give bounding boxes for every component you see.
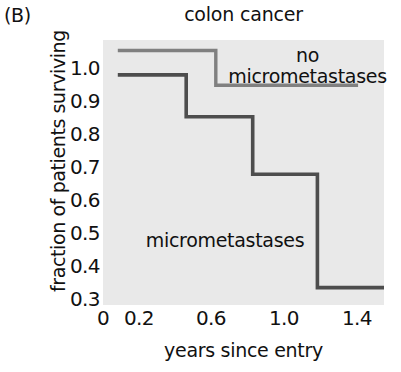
- series-label-no-micrometastases: no micrometastases: [214, 45, 401, 86]
- series-label-no-micrometastases-line1: no: [214, 45, 401, 66]
- figure-panel-b: (B) colon cancer fraction of patients su…: [0, 0, 401, 372]
- curve-micrometastases: [118, 75, 384, 288]
- series-label-micrometastases: micrometastases: [130, 230, 320, 251]
- x-axis-label: years since entry: [103, 339, 384, 361]
- series-label-no-micrometastases-line2: micrometastases: [214, 66, 401, 87]
